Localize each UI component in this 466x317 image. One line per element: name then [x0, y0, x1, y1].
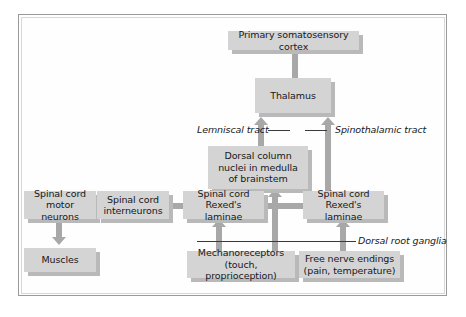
annotation-dorsal-root-ganglia: Dorsal root ganglia [358, 235, 447, 246]
node-label: Spinal cord interneurons [100, 194, 166, 217]
arrowhead-mechano-to-dorsalcolumn [268, 189, 282, 197]
annotation-lemniscal-tract: Lemniscal tract [197, 124, 269, 135]
node-label: Muscles [27, 254, 93, 265]
diagram-canvas: Primary somatosensory cortex Thalamus Do… [0, 0, 466, 317]
node-spinal-cord-interneurons[interactable]: Spinal cord interneurons [97, 191, 169, 219]
node-label: Thalamus [258, 90, 328, 101]
arrowhead-motorneurons-to-muscles [52, 237, 66, 245]
leader-line-spinothalamic-tract [305, 130, 327, 131]
node-thalamus[interactable]: Thalamus [255, 78, 331, 113]
node-muscles[interactable]: Muscles [24, 248, 96, 272]
connector-rexedright-to-thalamus [325, 124, 331, 191]
annotation-spinothalamic-tract: Spinothalamic tract [335, 124, 426, 135]
node-spinal-cord-rexeds-laminae-left[interactable]: Spinal cord Rexed's laminae [183, 191, 264, 219]
node-label: Spinal cord Rexed's laminae [306, 188, 381, 222]
node-mechanoreceptors[interactable]: Mechanoreceptors (touch, proprioception) [187, 251, 295, 278]
leader-line-dorsal-root-ganglia [197, 241, 356, 242]
connector-freenerve-to-rexedright [340, 225, 346, 251]
node-spinal-cord-rexeds-laminae-right[interactable]: Spinal cord Rexed's laminae [303, 191, 384, 219]
node-label: Free nerve endings (pain, temperature) [302, 253, 397, 276]
node-dorsal-column-nuclei[interactable]: Dorsal column nuclei in medulla of brain… [208, 146, 308, 189]
node-spinal-cord-motor-neurons[interactable]: Spinal cord motor neurons [24, 191, 96, 219]
node-primary-somatosensory-cortex[interactable]: Primary somatosensory cortex [228, 31, 359, 50]
node-label: Mechanoreceptors (touch, proprioception) [190, 247, 292, 281]
node-label: Spinal cord motor neurons [27, 188, 93, 222]
connector-thalamus-to-cortex [292, 50, 298, 78]
arrowhead-rexedright-to-thalamus [321, 117, 335, 125]
node-label: Spinal cord Rexed's laminae [186, 188, 261, 222]
node-label: Primary somatosensory cortex [231, 29, 356, 52]
leader-line-lemniscal-tract [268, 130, 290, 131]
node-label: Dorsal column nuclei in medulla of brain… [211, 150, 305, 184]
node-free-nerve-endings[interactable]: Free nerve endings (pain, temperature) [299, 251, 400, 278]
